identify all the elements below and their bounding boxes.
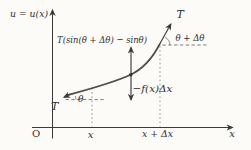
diagram-canvas: u = u(x) T(sin(θ + Δθ) − sinθ) θ + Δθ T … <box>0 0 251 150</box>
x-plus-dx-tick-label: x + Δx <box>142 128 173 139</box>
net-tension-formula: T(sin(θ + Δθ) − sinθ) <box>57 34 147 45</box>
x-axis-label: x <box>229 128 235 139</box>
angle-lower-label: θ <box>78 94 84 104</box>
distributed-load-label: −f(x)Δx <box>133 83 173 94</box>
string-tension-diagram: u = u(x) T(sin(θ + Δθ) − sinθ) θ + Δθ T … <box>0 0 251 150</box>
angle-upper-label: θ + Δθ <box>176 33 206 43</box>
u-axis-title: u = u(x) <box>10 8 48 19</box>
origin-label: O <box>32 128 40 139</box>
x-tick-label: x <box>88 129 94 140</box>
curve-point-dot <box>129 73 133 77</box>
